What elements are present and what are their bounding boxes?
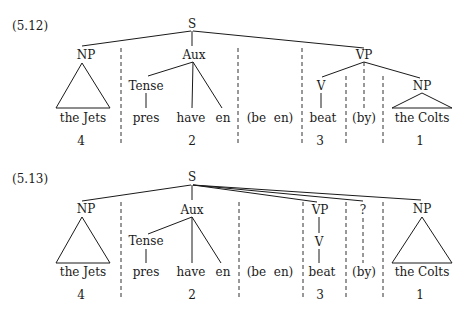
edge-s-vp: [193, 31, 364, 48]
edge-aux-en: [193, 62, 222, 108]
word-by: (by): [352, 265, 376, 279]
word-have: have: [177, 111, 206, 125]
node-np-subject: NP: [77, 202, 96, 216]
diagram-5-12: (5.12) S NP Aux Tense VP V NP the Je: [12, 17, 452, 148]
edge-s-unknown: [193, 185, 363, 201]
word-pres: pres: [133, 265, 160, 279]
np-triangle: [56, 217, 110, 263]
index-aux: 2: [188, 134, 196, 148]
node-v: V: [314, 235, 324, 249]
word-have: have: [177, 265, 206, 279]
np-object-triangle: [392, 217, 452, 263]
np-object-triangle: [392, 93, 452, 108]
index-subject: 4: [77, 288, 85, 302]
word-verb: beat: [309, 265, 336, 279]
word-object: the Colts: [395, 111, 450, 125]
index-object: 1: [416, 288, 424, 302]
edge-aux-have: [192, 62, 193, 108]
edge-s-np: [82, 185, 191, 201]
np-triangle: [56, 63, 110, 108]
node-aux: Aux: [179, 203, 203, 217]
edge-aux-tense: [148, 62, 193, 76]
edge-aux-tense: [148, 217, 192, 234]
example-number: (5.12): [12, 19, 48, 33]
word-pres: pres: [133, 111, 160, 125]
word-object: the Colts: [395, 265, 450, 279]
word-be-en: (be en): [247, 111, 294, 125]
node-unknown: ?: [360, 203, 366, 217]
word-en: en: [216, 265, 231, 279]
edge-s-vp: [193, 185, 317, 202]
tree-diagrams: (5.12) S NP Aux Tense VP V NP the Je: [0, 0, 464, 321]
node-tense: Tense: [128, 79, 163, 93]
index-aux: 2: [188, 288, 196, 302]
index-object: 1: [416, 134, 424, 148]
node-s: S: [188, 170, 196, 184]
edge-aux-en: [192, 217, 221, 263]
word-subject: the Jets: [60, 111, 106, 125]
node-aux: Aux: [181, 48, 205, 62]
diagram-5-13: (5.13) S NP Aux Tense VP V ? NP: [12, 170, 452, 302]
node-v: V: [316, 79, 326, 93]
index-subject: 4: [77, 134, 85, 148]
node-np-object: NP: [413, 79, 432, 93]
word-be-en: (be en): [247, 265, 294, 279]
node-vp: VP: [355, 48, 373, 62]
index-verb: 3: [316, 134, 324, 148]
word-subject: the Jets: [60, 265, 106, 279]
index-verb: 3: [316, 288, 324, 302]
word-verb: beat: [310, 111, 337, 125]
node-np-subject: NP: [77, 48, 96, 62]
word-by: (by): [352, 111, 376, 125]
node-vp: VP: [311, 203, 329, 217]
edge-s-np: [82, 31, 191, 46]
edge-s-np-object: [193, 185, 421, 200]
node-np-object: NP: [413, 202, 432, 216]
node-tense: Tense: [128, 234, 163, 248]
example-number: (5.13): [12, 172, 48, 186]
edge-vp-np: [364, 62, 420, 78]
edge-vp-v: [322, 62, 364, 77]
word-en: en: [216, 111, 231, 125]
node-s: S: [188, 17, 196, 31]
